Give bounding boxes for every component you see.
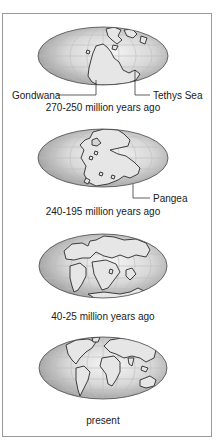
globe-40-25-ma [30,234,176,299]
continental-drift-diagram: Gondwana Tethys Sea 270-250 million year… [0,0,217,444]
svg-text:Gondwana: Gondwana [12,90,61,101]
caption-40-25-ma: 40-25 million years ago [51,311,155,322]
label-pangea: Pangea [133,184,188,204]
globe-240-195-ma [30,129,176,187]
svg-text:Pangea: Pangea [153,193,188,204]
svg-text:Tethys Sea: Tethys Sea [153,90,203,101]
globe-270-250-ma [30,27,176,85]
globe-present [30,337,176,399]
caption-240-195-ma: 240-195 million years ago [46,206,161,217]
caption-270-250-ma: 270-250 million years ago [46,102,161,113]
caption-present: present [86,415,120,426]
